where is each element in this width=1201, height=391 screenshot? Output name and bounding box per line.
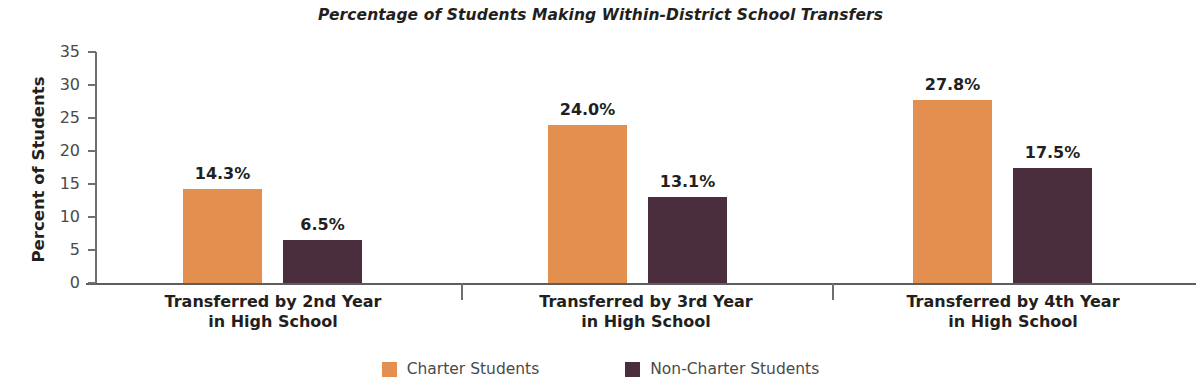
bar-non-charter-students-group-2: 13.1% (648, 197, 727, 283)
x-category-label-line: Transferred by 3rd Year (486, 292, 806, 312)
y-tick-label: 20 (40, 141, 80, 160)
y-tick-label: 35 (40, 42, 80, 61)
x-category-label-line: Transferred by 4th Year (853, 292, 1173, 312)
y-tick-mark (88, 84, 96, 85)
y-tick-label: 30 (40, 75, 80, 94)
x-category-label-line: in High School (486, 312, 806, 332)
bar-charter-students-group-3: 27.8% (913, 100, 992, 283)
chart-legend: Charter StudentsNon-Charter Students (0, 360, 1201, 378)
bar-value-label: 27.8% (925, 75, 981, 94)
plot-area: 14.3%6.5%24.0%13.1%27.8%17.5% (96, 52, 1188, 283)
legend-swatch-icon (625, 362, 640, 377)
legend-swatch-icon (382, 362, 397, 377)
x-category-label-line: in High School (853, 312, 1173, 332)
x-axis-line (86, 283, 1196, 285)
group-separator-tick (461, 283, 463, 300)
y-tick-label: 10 (40, 207, 80, 226)
bar-non-charter-students-group-1: 6.5% (283, 240, 362, 283)
x-category-label-line: Transferred by 2nd Year (113, 292, 433, 312)
legend-label: Non-Charter Students (650, 360, 819, 378)
y-tick-mark (88, 183, 96, 184)
bar-non-charter-students-group-3: 17.5% (1013, 168, 1092, 284)
y-tick-mark (88, 282, 96, 283)
y-tick-label: 0 (40, 273, 80, 292)
bar-charter-students-group-1: 14.3% (183, 189, 262, 283)
x-category-label-line: in High School (113, 312, 433, 332)
x-category-label-2: Transferred by 3rd Yearin High School (486, 292, 806, 332)
bar-value-label: 17.5% (1025, 143, 1081, 162)
chart-figure: Percentage of Students Making Within-Dis… (0, 0, 1201, 391)
bar-charter-students-group-2: 24.0% (548, 125, 627, 283)
group-separator-tick (832, 283, 834, 300)
x-category-label-3: Transferred by 4th Yearin High School (853, 292, 1173, 332)
y-tick-mark (88, 216, 96, 217)
bar-value-label: 6.5% (300, 215, 344, 234)
chart-title: Percentage of Students Making Within-Dis… (0, 6, 1201, 24)
y-tick-mark (88, 150, 96, 151)
y-tick-label: 15 (40, 174, 80, 193)
y-tick-mark (88, 51, 96, 52)
bar-value-label: 13.1% (660, 172, 716, 191)
legend-item-charter-students[interactable]: Charter Students (382, 360, 540, 378)
bar-value-label: 14.3% (195, 164, 251, 183)
x-category-label-1: Transferred by 2nd Yearin High School (113, 292, 433, 332)
y-tick-label: 5 (40, 240, 80, 259)
y-tick-mark (88, 249, 96, 250)
legend-item-non-charter-students[interactable]: Non-Charter Students (625, 360, 819, 378)
y-tick-mark (88, 117, 96, 118)
bar-value-label: 24.0% (560, 100, 616, 119)
y-tick-label: 25 (40, 108, 80, 127)
legend-label: Charter Students (407, 360, 540, 378)
